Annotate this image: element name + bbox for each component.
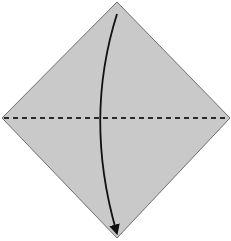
diagram-canvas: [0, 0, 231, 241]
origami-diagram: [0, 0, 231, 241]
paper-square: [2, 2, 230, 238]
